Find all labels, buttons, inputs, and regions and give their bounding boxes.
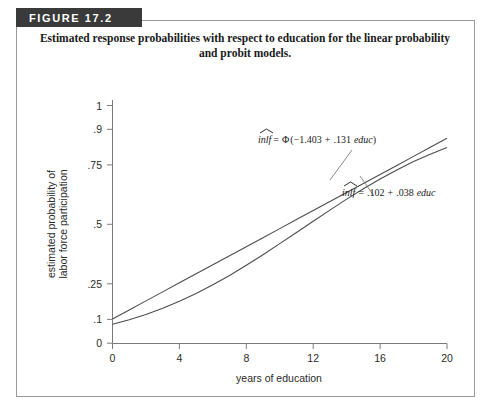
figure-root: FIGURE 17.2 Estimated response probabili… [0,0,491,418]
page-text-bleed [0,0,491,7]
figure-number-tab: FIGURE 17.2 [16,8,142,27]
caption-line-1: Estimated response probabilities with re… [30,31,460,46]
figure-border [16,20,475,397]
figure-caption: Estimated response probabilities with re… [30,31,460,61]
caption-line-2: and probit models. [30,46,460,61]
